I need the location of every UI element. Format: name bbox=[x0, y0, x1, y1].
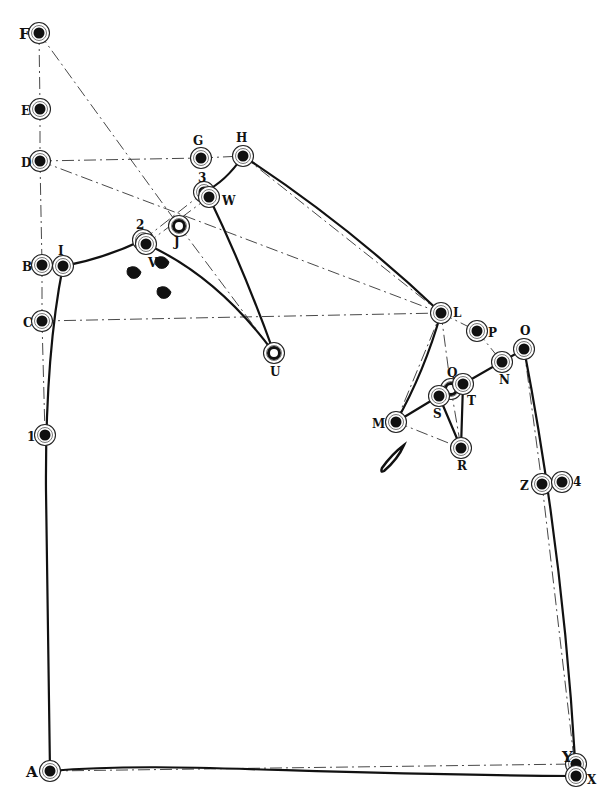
point-dot bbox=[196, 153, 207, 164]
construction-lines bbox=[39, 33, 576, 776]
neck-curve bbox=[63, 240, 143, 266]
construction-line-D-B bbox=[40, 161, 42, 265]
construction-line-Z-X bbox=[542, 484, 576, 776]
point-dot bbox=[35, 104, 46, 115]
hem bbox=[50, 767, 576, 776]
point-dot bbox=[557, 477, 568, 488]
point-label: Z bbox=[520, 479, 529, 493]
point-c: C bbox=[23, 311, 53, 332]
point-label: L bbox=[453, 306, 462, 320]
construction-line-F-J bbox=[39, 33, 179, 226]
point-1: 1 bbox=[27, 425, 56, 446]
point-label: 2 bbox=[136, 218, 144, 232]
construction-line-D-L bbox=[40, 161, 441, 313]
point-label: M bbox=[372, 417, 385, 431]
point-label: C bbox=[23, 316, 33, 330]
point-dot bbox=[472, 326, 483, 337]
point-o: O bbox=[514, 324, 535, 360]
point-dot bbox=[35, 156, 46, 167]
point-w: W bbox=[199, 187, 237, 209]
point-dot bbox=[40, 430, 51, 441]
point-label: I bbox=[58, 244, 64, 258]
point-x: X bbox=[566, 766, 598, 788]
point-label: T bbox=[467, 394, 476, 408]
point-dot bbox=[34, 28, 45, 39]
point-label: D bbox=[21, 156, 31, 170]
point-dot bbox=[497, 357, 508, 368]
point-m: M bbox=[372, 412, 407, 433]
construction-line-H-L bbox=[243, 156, 441, 313]
point-dot bbox=[571, 771, 582, 782]
point-dot bbox=[204, 192, 215, 203]
point-dot bbox=[37, 260, 48, 271]
point-label: V bbox=[147, 256, 158, 270]
point-label: E bbox=[21, 104, 30, 118]
point-label: 4 bbox=[573, 475, 581, 489]
point-a: A bbox=[25, 761, 61, 782]
point-dot bbox=[456, 443, 467, 454]
marks bbox=[127, 257, 404, 472]
point-label: S bbox=[433, 407, 442, 421]
point-dot bbox=[519, 344, 530, 355]
pattern-diagram: FEDGH3WJ2VBICU1LPONQSTMRZ4AYX bbox=[0, 0, 608, 799]
point-label: P bbox=[488, 326, 497, 340]
point-dot bbox=[37, 316, 48, 327]
point-dot bbox=[141, 239, 152, 250]
point-label: B bbox=[22, 260, 32, 274]
point-h: H bbox=[233, 131, 254, 167]
point-t: T bbox=[453, 374, 477, 409]
point-label: O bbox=[520, 324, 530, 338]
point-label: W bbox=[221, 194, 236, 208]
construction-line-O-Z bbox=[524, 349, 542, 484]
point-label: Y bbox=[561, 748, 573, 766]
point-label: G bbox=[193, 134, 203, 148]
point-label: H bbox=[236, 131, 247, 145]
front-edge bbox=[46, 266, 63, 771]
construction-line-D-G bbox=[40, 158, 201, 161]
point-n: N bbox=[492, 352, 513, 388]
construction-line-C-1 bbox=[42, 321, 45, 435]
points: FEDGH3WJ2VBICU1LPONQSTMRZ4AYX bbox=[19, 23, 597, 788]
construction-line-F-E bbox=[39, 33, 40, 109]
point-label: X bbox=[587, 773, 597, 787]
point-4: 4 bbox=[552, 472, 582, 493]
point-dot bbox=[45, 766, 56, 777]
point-label: A bbox=[25, 763, 38, 781]
point-b: B bbox=[22, 255, 53, 276]
point-r: R bbox=[451, 438, 472, 474]
point-ring-marker bbox=[174, 221, 185, 232]
loop-mark bbox=[381, 445, 404, 472]
dart-right bbox=[209, 197, 274, 353]
tack-mark-1 bbox=[127, 267, 141, 279]
point-dot bbox=[537, 479, 548, 490]
point-j: J bbox=[169, 216, 190, 250]
point-label: U bbox=[270, 365, 281, 379]
point-f: F bbox=[19, 23, 50, 44]
point-label: N bbox=[499, 373, 510, 387]
point-label: R bbox=[457, 459, 468, 473]
tack-mark-3 bbox=[157, 287, 171, 299]
point-label: F bbox=[19, 25, 30, 43]
point-label: 1 bbox=[27, 430, 35, 444]
point-dot bbox=[58, 261, 69, 272]
point-e: E bbox=[21, 99, 51, 120]
point-label: J bbox=[173, 235, 180, 249]
point-dot bbox=[434, 391, 445, 402]
point-d: D bbox=[21, 151, 51, 172]
point-v: V bbox=[136, 234, 159, 271]
point-ring-marker bbox=[269, 348, 280, 359]
point-dot bbox=[238, 151, 249, 162]
point-z: Z bbox=[520, 474, 553, 495]
point-g: G bbox=[191, 134, 212, 169]
point-u: U bbox=[264, 343, 285, 380]
outline-curves bbox=[46, 156, 576, 776]
point-dot bbox=[458, 379, 469, 390]
point-l: L bbox=[431, 303, 463, 324]
point-dot bbox=[391, 417, 402, 428]
point-label: 3 bbox=[198, 171, 206, 185]
point-i: I bbox=[53, 244, 74, 277]
point-dot bbox=[436, 308, 447, 319]
point-p: P bbox=[467, 321, 498, 342]
